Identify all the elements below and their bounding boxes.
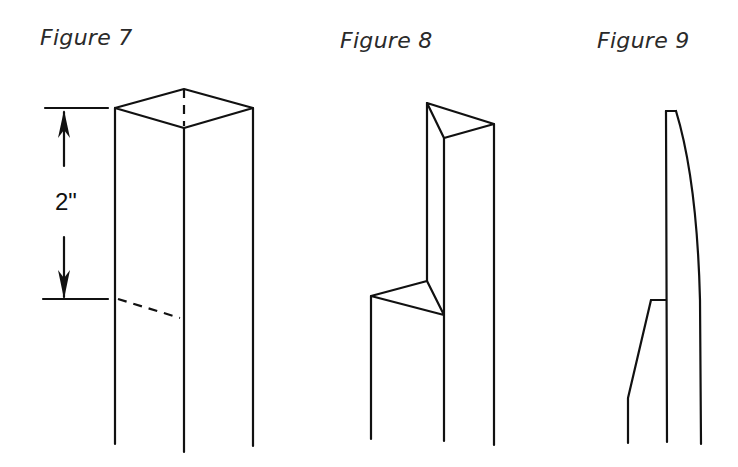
figure-8-post	[371, 103, 494, 445]
figure-9-profile	[628, 111, 701, 444]
figure-7-post	[115, 89, 253, 452]
dimension-arrow	[43, 108, 108, 299]
technical-drawings	[0, 0, 738, 467]
